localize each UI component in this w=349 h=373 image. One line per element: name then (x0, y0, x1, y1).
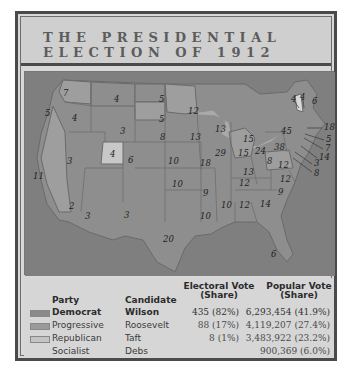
us-electoral-map: 7 5 11 2 4 3 4 3 4 3 6 3 5 5 8 10 10 20 … (24, 71, 334, 275)
ev-ma: 18 (324, 122, 335, 132)
electoral-progressive: 88 (17%) (198, 320, 239, 330)
ev-pa: 38 (274, 142, 285, 152)
party-democrat: Democrat (52, 307, 101, 317)
ev-md: 8 (314, 168, 320, 178)
ev-nh: 4 (299, 92, 305, 102)
ev-tx: 20 (162, 234, 174, 244)
ev-id: 4 (71, 113, 77, 123)
ev-ut: 4 (109, 149, 115, 159)
party-republican: Republican (52, 333, 102, 343)
popular-progressive: 4,119,207 (27.4%) (246, 320, 330, 330)
ev-wa: 7 (63, 88, 69, 98)
swatch-republican (30, 336, 50, 343)
ev-mo: 18 (200, 158, 211, 168)
ev-wi: 13 (215, 124, 226, 134)
ev-me: 6 (312, 96, 318, 106)
ev-nj: 14 (319, 152, 330, 162)
ev-ga: 14 (260, 199, 271, 209)
ev-wv: 8 (267, 156, 273, 166)
ev-mt: 4 (113, 94, 119, 104)
header-electoral-line2: (Share) (182, 291, 256, 300)
ev-co: 6 (128, 155, 134, 165)
ev-ks: 10 (168, 156, 179, 166)
ev-ne: 8 (160, 132, 166, 142)
map-graphic: 7 5 11 2 4 3 4 3 4 3 6 3 5 5 8 10 10 20 … (25, 72, 335, 276)
ev-sc: 9 (278, 187, 284, 197)
candidate-taft: Taft (125, 333, 141, 343)
ev-al: 12 (239, 200, 250, 210)
ev-nd: 5 (159, 94, 164, 104)
ev-fl: 6 (271, 249, 277, 259)
header-party: Party (52, 296, 79, 305)
party-progressive: Progressive (52, 320, 104, 330)
ev-or: 5 (45, 108, 50, 118)
electoral-republican: 8 (1%) (209, 333, 239, 343)
ev-mi: 15 (243, 134, 254, 144)
ev-ky: 13 (243, 167, 254, 177)
popular-republican: 3,483,922 (23.2%) (246, 333, 330, 343)
electoral-democrat: 435 (82%) (192, 307, 239, 317)
title-line-1: THE PRESIDENTIAL (43, 30, 281, 45)
ev-il: 29 (214, 148, 226, 158)
ev-ca: 11 (33, 171, 44, 181)
party-socialist: Socialist (52, 346, 89, 356)
ev-la: 10 (200, 211, 211, 221)
popular-democrat: 6,293,454 (41.9%) (246, 307, 330, 317)
legend-table: Party Candidate Electoral Vote (Share) P… (24, 278, 334, 357)
ev-ms: 10 (221, 200, 232, 210)
swatch-progressive (30, 323, 50, 330)
candidate-roosevelt: Roosevelt (125, 320, 169, 330)
ev-nc: 12 (280, 174, 291, 184)
ev-tn: 12 (239, 178, 250, 188)
ev-ny: 45 (280, 126, 292, 136)
popular-socialist: 900,369 (6.0%) (260, 346, 330, 356)
candidate-debs: Debs (125, 346, 148, 356)
ev-ok: 10 (172, 179, 183, 189)
ev-nv: 3 (67, 156, 72, 166)
ev-ar: 9 (203, 188, 209, 198)
candidate-wilson: Wilson (125, 307, 159, 317)
ev-wy: 3 (120, 126, 125, 136)
ev-oh: 24 (254, 146, 266, 156)
ev-az: 3 (85, 211, 90, 221)
ev-in: 15 (238, 148, 249, 158)
title-line-2: ELECTION OF 1912 (43, 45, 275, 60)
ev-mn: 12 (188, 106, 199, 116)
map-frame: THE PRESIDENTIAL ELECTION OF 1912 (15, 11, 337, 361)
title-panel: THE PRESIDENTIAL ELECTION OF 1912 (21, 17, 331, 66)
swatch-democrat (30, 310, 50, 317)
inner-border: THE PRESIDENTIAL ELECTION OF 1912 (20, 16, 332, 356)
ev-de: 3 (314, 158, 319, 168)
ev-nm: 3 (124, 210, 129, 220)
ev-ca-2: 2 (68, 201, 74, 211)
ev-ia: 13 (190, 132, 201, 142)
ev-va: 12 (278, 160, 289, 170)
ev-sd: 5 (159, 114, 164, 124)
header-popular-line2: (Share) (264, 291, 334, 300)
header-candidate: Candidate (125, 296, 177, 305)
